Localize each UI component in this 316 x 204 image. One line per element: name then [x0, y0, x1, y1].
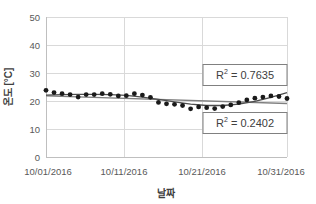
x-tick-label-10-01: 10/01/2016 [24, 166, 72, 177]
data-point [261, 95, 266, 100]
data-point [188, 106, 193, 111]
data-point [156, 100, 161, 105]
annotation-r2-polynomial: R2 = 0.7635 [203, 65, 287, 86]
y-tick-label-30: 30 [29, 68, 40, 79]
x-axis-title: 날짜 [157, 187, 176, 199]
annotation-r2-linear: R2 = 0.2402 [203, 113, 287, 134]
chart-container: 50 40 30 20 10 0 10/01/2016 10/11/2016 1… [0, 0, 316, 204]
y-tick-label-20: 20 [29, 96, 40, 107]
data-point [44, 88, 49, 93]
data-point [148, 95, 153, 100]
y-tick-label-10: 10 [29, 124, 40, 135]
data-point [269, 94, 274, 99]
data-point [236, 100, 241, 105]
data-point [84, 92, 89, 97]
data-point [172, 102, 177, 107]
data-point [180, 103, 185, 108]
data-point [132, 91, 137, 96]
data-point [100, 91, 105, 96]
data-point [285, 96, 290, 101]
data-point [140, 93, 145, 98]
data-point [92, 92, 97, 97]
data-point [116, 94, 121, 99]
data-point [164, 101, 169, 106]
data-point [212, 106, 217, 111]
y-tick-label-50: 50 [29, 12, 40, 23]
data-point [76, 95, 81, 100]
y-axis-title: 온도 [°C] [3, 68, 14, 107]
data-point [52, 90, 57, 95]
x-tick-label-10-31: 10/31/2016 [257, 166, 305, 177]
data-point [196, 104, 201, 109]
data-point [244, 97, 249, 102]
data-point [220, 104, 225, 109]
data-point [124, 93, 129, 98]
x-tick-label-10-21: 10/21/2016 [178, 166, 226, 177]
data-point [60, 91, 65, 96]
y-tick-label-0: 0 [35, 152, 40, 163]
data-point [252, 96, 257, 101]
data-point [108, 92, 113, 97]
data-point [68, 92, 73, 97]
data-point [228, 103, 233, 108]
temperature-scatter-chart: 50 40 30 20 10 0 10/01/2016 10/11/2016 1… [0, 0, 316, 204]
x-tick-label-10-11: 10/11/2016 [101, 166, 148, 177]
data-point [277, 94, 282, 99]
data-point [204, 105, 209, 110]
y-tick-label-40: 40 [29, 40, 40, 51]
